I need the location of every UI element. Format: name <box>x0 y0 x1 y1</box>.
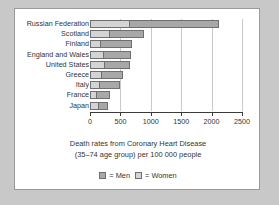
bar-segment-men <box>96 92 109 98</box>
stacked-bar <box>90 81 120 89</box>
x-axis-tick <box>90 112 91 116</box>
category-label: Russian Federation <box>17 19 89 29</box>
bar-row <box>90 29 242 39</box>
bar-segment-men <box>98 103 108 109</box>
bar-segment-women <box>91 72 101 78</box>
category-label: Japan <box>17 101 89 111</box>
bar-segment-men <box>99 82 120 88</box>
x-axis-tick-label: 500 <box>105 117 135 126</box>
category-label: United States <box>17 60 89 70</box>
bar-segment-men <box>129 21 218 27</box>
category-label: Finland <box>17 39 89 49</box>
category-label-column: Russian Federation Scotland Finland Engl… <box>17 19 89 111</box>
legend-entry-men: = Men <box>99 171 130 180</box>
stacked-bar <box>90 71 123 79</box>
chart-caption-line-1: Death rates from Coronary Heart Disease <box>15 139 261 148</box>
legend-label-men: = Men <box>109 171 130 180</box>
bar-segment-women <box>91 82 99 88</box>
category-label: France <box>17 90 89 100</box>
x-axis-tick <box>181 112 182 116</box>
x-axis-tick <box>151 112 152 116</box>
x-axis-tick <box>242 112 243 116</box>
category-label: England and Wales <box>17 50 89 60</box>
bar-segment-men <box>109 31 143 37</box>
chart-caption-line-2: (35–74 age group) per 100 000 people <box>15 150 261 159</box>
stacked-bar <box>90 102 108 110</box>
stacked-bar <box>90 20 219 28</box>
gridline <box>242 19 243 111</box>
stacked-bar <box>90 51 131 59</box>
x-axis-tick <box>212 112 213 116</box>
chart-figure-frame: Russian Federation Scotland Finland Engl… <box>14 8 260 190</box>
legend-swatch-women-icon <box>135 172 142 179</box>
bar-row <box>90 80 242 90</box>
bar-row <box>90 19 242 29</box>
bar-segment-men <box>100 41 131 47</box>
bar-segment-men <box>104 62 129 68</box>
legend-label-women: = Women <box>145 171 177 180</box>
bar-row <box>90 39 242 49</box>
bar-row <box>90 70 242 80</box>
x-axis-tick-label: 0 <box>75 117 105 126</box>
bar-row <box>90 90 242 100</box>
stacked-bar <box>90 61 130 69</box>
bar-row <box>90 50 242 60</box>
x-axis-tick-label: 2500 <box>227 117 257 126</box>
bar-segment-women <box>91 41 100 47</box>
legend-entry-women: = Women <box>135 171 177 180</box>
x-axis-tick-label: 2000 <box>197 117 227 126</box>
bar-segment-women <box>91 21 129 27</box>
bar-row <box>90 101 242 111</box>
bar-segment-men <box>101 72 122 78</box>
x-axis-tick <box>120 112 121 116</box>
legend-swatch-men-icon <box>99 172 106 179</box>
category-label: Italy <box>17 80 89 90</box>
stacked-bar <box>90 30 144 38</box>
x-axis-tick-label: 1500 <box>166 117 196 126</box>
bar-segment-women <box>91 62 104 68</box>
bar-segment-women <box>91 31 109 37</box>
x-axis-line <box>90 112 242 113</box>
bar-row <box>90 60 242 70</box>
category-label: Scotland <box>17 29 89 39</box>
bar-segment-men <box>103 52 131 58</box>
x-axis-tick-label: 1000 <box>136 117 166 126</box>
bar-segment-women <box>91 103 98 109</box>
chart-legend: = Men = Women <box>15 171 261 180</box>
chart-area: Russian Federation Scotland Finland Engl… <box>15 9 261 191</box>
bar-segment-women <box>91 52 103 58</box>
category-label: Greece <box>17 70 89 80</box>
stacked-bar <box>90 91 110 99</box>
plot-region <box>90 19 242 111</box>
stacked-bar <box>90 40 132 48</box>
